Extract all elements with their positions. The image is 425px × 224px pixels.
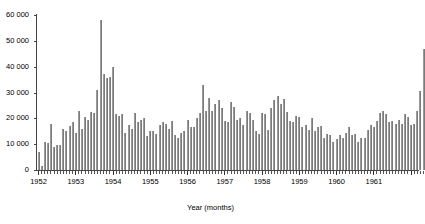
x-tick-mark-month bbox=[404, 171, 405, 174]
bar bbox=[44, 142, 46, 170]
x-tick-mark-month bbox=[243, 171, 244, 174]
x-tick-mark-month bbox=[119, 171, 120, 174]
bar bbox=[401, 124, 403, 171]
x-tick-mark-month bbox=[85, 171, 86, 174]
x-tick-mark-month bbox=[321, 171, 322, 174]
x-tick-mark-month bbox=[414, 171, 415, 174]
x-tick-mark-month bbox=[237, 171, 238, 174]
bar bbox=[93, 113, 95, 170]
x-tick-mark-month bbox=[339, 171, 340, 174]
bar bbox=[308, 130, 310, 170]
x-tick-mark-month bbox=[314, 171, 315, 174]
bar bbox=[246, 111, 248, 170]
x-tick-mark-month bbox=[389, 171, 390, 174]
x-tick-mark-year bbox=[411, 171, 412, 175]
x-tick-mark-month bbox=[60, 171, 61, 174]
bar bbox=[332, 142, 334, 170]
x-tick-mark-month bbox=[215, 171, 216, 174]
x-tick-mark-month bbox=[69, 171, 70, 174]
bar bbox=[112, 67, 114, 170]
bar bbox=[214, 104, 216, 170]
x-tick-label: 1961 bbox=[365, 177, 382, 186]
x-tick-mark-month bbox=[128, 171, 129, 174]
bar bbox=[103, 74, 105, 170]
x-tick-mark-month bbox=[125, 171, 126, 174]
bar bbox=[283, 99, 285, 170]
bar bbox=[159, 125, 161, 170]
bar bbox=[53, 147, 55, 170]
bar bbox=[416, 111, 418, 170]
x-tick-mark-month bbox=[398, 171, 399, 174]
bar bbox=[69, 126, 71, 170]
x-tick-mark-month bbox=[280, 171, 281, 174]
x-tick-mark-month bbox=[330, 171, 331, 174]
x-tick-mark-month bbox=[383, 171, 384, 174]
bar bbox=[351, 135, 353, 170]
x-tick-mark-month bbox=[367, 171, 368, 174]
bar bbox=[115, 114, 117, 170]
x-tick-mark-month bbox=[54, 171, 55, 174]
bar bbox=[193, 127, 195, 170]
bar bbox=[233, 107, 235, 170]
x-tick-mark-month bbox=[178, 171, 179, 174]
bar bbox=[270, 108, 272, 170]
bar bbox=[146, 136, 148, 170]
bar bbox=[56, 145, 58, 170]
bar bbox=[388, 122, 390, 170]
x-tick-mark-month bbox=[94, 171, 95, 174]
bar bbox=[326, 134, 328, 170]
x-tick-mark-month bbox=[134, 171, 135, 174]
x-tick-mark-month bbox=[196, 171, 197, 174]
x-tick-mark-month bbox=[193, 171, 194, 174]
bar bbox=[311, 118, 313, 170]
bar bbox=[345, 133, 347, 170]
bar bbox=[137, 122, 139, 170]
bar bbox=[202, 85, 204, 170]
bar bbox=[292, 122, 294, 170]
x-tick-mark-year bbox=[187, 171, 188, 175]
bar bbox=[298, 117, 300, 170]
x-tick-mark-month bbox=[168, 171, 169, 174]
bar bbox=[121, 114, 123, 170]
x-tick-mark-month bbox=[156, 171, 157, 174]
bar bbox=[391, 121, 393, 170]
x-tick-mark-month bbox=[345, 171, 346, 174]
x-tick-mark-month bbox=[116, 171, 117, 174]
x-tick-mark-month bbox=[361, 171, 362, 174]
bar bbox=[398, 120, 400, 170]
x-tick-mark-month bbox=[349, 171, 350, 174]
bar bbox=[339, 135, 341, 170]
bar bbox=[196, 118, 198, 170]
x-tick-mark-month bbox=[140, 171, 141, 174]
x-tick-mark-month bbox=[395, 171, 396, 174]
x-tick-mark-month bbox=[283, 171, 284, 174]
bar bbox=[218, 100, 220, 170]
bar bbox=[348, 127, 350, 170]
x-axis-title: Year (months) bbox=[0, 203, 421, 212]
x-tick-mark-month bbox=[153, 171, 154, 174]
x-tick-mark-month bbox=[252, 171, 253, 174]
x-tick-mark-month bbox=[240, 171, 241, 174]
bar bbox=[152, 131, 154, 170]
x-tick-mark-month bbox=[274, 171, 275, 174]
bar bbox=[208, 98, 210, 170]
x-tick-mark-month bbox=[181, 171, 182, 174]
bar bbox=[252, 120, 254, 170]
x-tick-mark-month bbox=[364, 171, 365, 174]
x-tick-label: 1958 bbox=[254, 177, 271, 186]
x-tick-label: 1956 bbox=[179, 177, 196, 186]
bar bbox=[50, 124, 52, 171]
x-tick-mark-month bbox=[162, 171, 163, 174]
bar bbox=[224, 121, 226, 170]
x-tick-label: 1957 bbox=[216, 177, 233, 186]
bar bbox=[360, 138, 362, 170]
bar bbox=[155, 134, 157, 170]
x-tick-mark-month bbox=[290, 171, 291, 174]
x-tick-mark-month bbox=[249, 171, 250, 174]
x-tick-mark-month bbox=[103, 171, 104, 174]
bar bbox=[367, 130, 369, 170]
x-tick-mark-month bbox=[327, 171, 328, 174]
x-tick-mark-month bbox=[407, 171, 408, 174]
bar bbox=[354, 134, 356, 170]
x-tick-mark-month bbox=[258, 171, 259, 174]
